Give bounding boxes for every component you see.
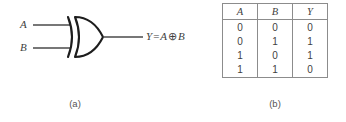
cell-y: 1 [293,49,328,63]
xor-operator-icon: ⊕ [167,30,178,42]
xor-back-arc [68,17,72,57]
or-gate-body [75,17,103,57]
column-header-b: B [258,4,293,20]
cell-a: 0 [223,20,258,36]
truth-table-figure: A B Y 0 0 0 0 1 1 1 0 1 1 1 [222,3,328,78]
xor-gate-figure: A B Y=A⊕B [0,0,200,122]
cell-b: 1 [258,35,293,49]
cell-y: 1 [293,35,328,49]
figure-caption-a: (a) [55,98,95,109]
table-row: 1 1 0 [223,63,328,78]
input-label-a: A [20,18,27,30]
table-row: 1 0 1 [223,49,328,63]
table-row: 0 0 0 [223,20,328,36]
table-row: 0 1 1 [223,35,328,49]
column-header-a: A [223,4,258,20]
cell-a: 1 [223,49,258,63]
cell-b: 0 [258,20,293,36]
input-label-b: B [20,41,27,53]
cell-y: 0 [293,63,328,78]
cell-b: 0 [258,49,293,63]
column-header-y: Y [293,4,328,20]
table-header-row: A B Y [223,4,328,20]
operand-b: B [178,30,185,42]
cell-y: 0 [293,20,328,36]
cell-b: 1 [258,63,293,78]
truth-table: A B Y 0 0 0 0 1 1 1 0 1 1 1 [222,3,328,78]
cell-a: 1 [223,63,258,78]
figure-caption-b: (b) [255,98,295,109]
xor-gate-schematic [0,0,200,122]
cell-a: 0 [223,35,258,49]
output-expression: Y=A⊕B [146,30,185,43]
